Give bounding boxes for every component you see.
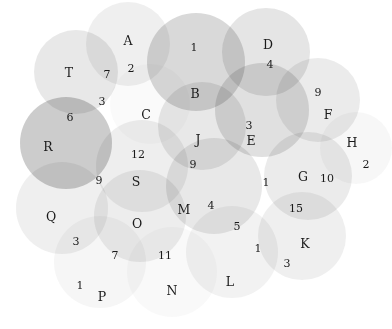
set-label-h: H bbox=[347, 137, 358, 150]
region-count-3: 3 bbox=[246, 120, 253, 131]
set-label-r: R bbox=[43, 141, 52, 154]
set-label-k: K bbox=[300, 238, 309, 251]
region-count-1: 1 bbox=[191, 42, 198, 53]
set-label-m: M bbox=[178, 204, 191, 217]
set-label-a: A bbox=[123, 35, 132, 48]
region-count-7: 7 bbox=[104, 69, 111, 80]
set-label-g: G bbox=[298, 171, 308, 184]
set-label-n: N bbox=[167, 285, 178, 298]
region-count-10: 10 bbox=[320, 173, 334, 184]
region-count-2: 2 bbox=[128, 63, 135, 74]
region-count-7: 7 bbox=[112, 250, 119, 261]
set-label-f: F bbox=[324, 109, 333, 122]
region-count-9: 9 bbox=[190, 159, 197, 170]
set-label-p: P bbox=[98, 291, 106, 304]
set-label-l: L bbox=[226, 276, 234, 289]
set-label-t: T bbox=[65, 67, 73, 80]
region-count-6: 6 bbox=[67, 112, 74, 123]
region-count-5: 5 bbox=[234, 221, 241, 232]
region-count-1: 1 bbox=[255, 243, 262, 254]
region-count-3: 3 bbox=[99, 96, 106, 107]
region-count-1: 1 bbox=[263, 177, 270, 188]
region-count-3: 3 bbox=[73, 236, 80, 247]
region-count-12: 12 bbox=[131, 149, 145, 160]
region-count-4: 4 bbox=[208, 200, 215, 211]
set-label-b: B bbox=[190, 88, 199, 101]
region-count-9: 9 bbox=[96, 175, 103, 186]
region-count-2: 2 bbox=[363, 159, 370, 170]
region-count-4: 4 bbox=[267, 59, 274, 70]
set-label-e: E bbox=[246, 135, 255, 148]
venn-labels-layer: A2T71D4B39CF63JEHR12929S1G10QM415O537111… bbox=[0, 0, 392, 329]
set-label-o: O bbox=[132, 218, 142, 231]
set-label-c: C bbox=[141, 109, 151, 122]
set-label-j: J bbox=[195, 134, 200, 147]
region-count-11: 11 bbox=[158, 250, 172, 261]
region-count-3: 3 bbox=[284, 258, 291, 269]
set-label-s: S bbox=[132, 176, 141, 189]
region-count-9: 9 bbox=[315, 87, 322, 98]
set-label-q: Q bbox=[46, 211, 56, 224]
region-count-15: 15 bbox=[289, 203, 303, 214]
venn-diagram-figure: A2T71D4B39CF63JEHR12929S1G10QM415O537111… bbox=[0, 0, 392, 329]
set-label-d: D bbox=[263, 39, 273, 52]
region-count-1: 1 bbox=[77, 280, 84, 291]
